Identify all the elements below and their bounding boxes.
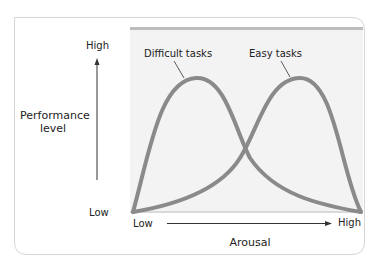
x-axis-title: Arousal — [220, 236, 280, 249]
y-axis-title: Performance level — [20, 109, 86, 135]
x-axis-low-label: Low — [133, 218, 153, 230]
y-axis-title-line1: Performance — [20, 109, 86, 122]
plot-top-band — [130, 27, 363, 30]
easy-tasks-annotation: Easy tasks — [249, 48, 302, 60]
chart-canvas — [0, 0, 381, 273]
y-axis-high-label: High — [86, 40, 109, 52]
difficult-tasks-annotation: Difficult tasks — [144, 48, 212, 60]
y-axis-title-line2: level — [20, 122, 86, 135]
x-axis-high-label: High — [338, 217, 361, 229]
y-axis-low-label: Low — [89, 207, 109, 219]
